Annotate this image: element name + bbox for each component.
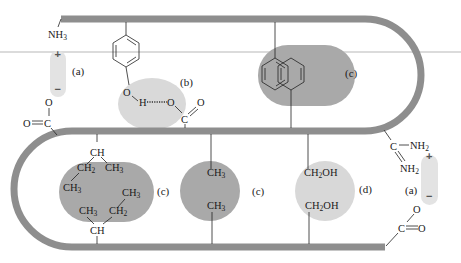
oxygen-atom: O [167,97,175,108]
hydrogen-bond-blob [118,78,186,130]
oxygen-atom: O [197,97,205,108]
minus-sign: − [426,190,432,202]
oxygen-atom: O [123,87,131,98]
carbon-atom: C [44,118,51,129]
carbon-atom: C [398,223,405,234]
protein-tertiary-structure-diagram: NH3 + − (a) O C O O H O C O (b) (c) CH C… [0,0,461,263]
label-d: (d) [359,183,372,196]
oxygen-atom: O [413,204,421,215]
plus-sign: + [55,48,61,60]
oxygen-atom: O [23,118,31,129]
double-bond [190,109,198,116]
benzene-ring [113,35,139,67]
ch-group: CH [90,147,105,158]
bond [386,233,398,246]
minus-sign: − [55,83,61,95]
carbon-atom: C [390,141,397,152]
label-c-methyl: (c) [252,185,265,198]
ch-group: CH [90,225,105,236]
carbon-atom: C [181,114,188,125]
label-c-phenyl: (c) [345,67,358,80]
hydrogen-atom: H [139,97,147,108]
nh2-group: NH2 [400,163,419,176]
bond [58,19,61,27]
double-bond [395,152,402,162]
bond [126,67,129,85]
oxygen-atom: O [45,97,53,108]
label-a-right: (a) [405,184,418,197]
oxygen-atom: O [418,223,426,234]
phenyl-hydrophobic-blob [258,45,355,106]
bond [384,130,391,140]
nh3-group: NH3 [48,29,67,42]
double-bond [188,107,196,114]
label-a-left: (a) [72,65,85,78]
label-b: (b) [180,76,193,89]
bond [407,214,414,222]
plus-sign: + [426,150,432,162]
label-c-isoleucine: (c) [157,185,170,198]
double-bond [398,151,405,161]
